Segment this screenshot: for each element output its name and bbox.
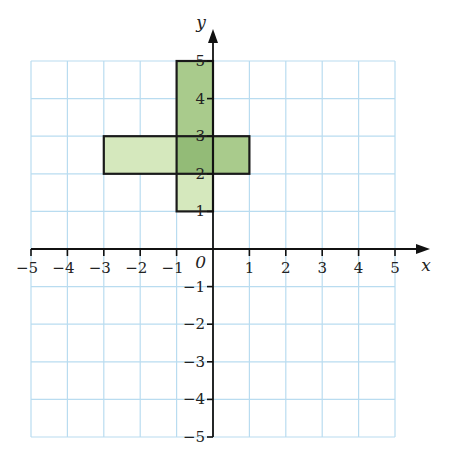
y-tick-label: 2 (195, 165, 205, 183)
x-tick-label: −4 (52, 259, 74, 277)
x-axis-arrow-icon (416, 244, 430, 254)
axes (31, 29, 430, 437)
y-tick-label: −3 (183, 353, 205, 371)
y-axis-arrow-icon (208, 29, 218, 43)
origin-label: 0 (195, 252, 206, 272)
y-tick-label: −1 (183, 278, 205, 296)
x-axis-label: x (421, 255, 431, 275)
coordinate-plane: −5−4−3−2−11234554321−1−2−3−4−50xy (0, 0, 449, 472)
y-tick-label: 4 (195, 90, 205, 108)
y-tick-label: 5 (195, 52, 205, 70)
x-tick-label: −2 (125, 259, 147, 277)
shapes (104, 61, 250, 211)
x-tick-label: 3 (317, 259, 327, 277)
tick-labels: −5−4−3−2−11234554321−1−2−3−4−50xy (16, 12, 431, 446)
x-tick-label: 5 (390, 259, 400, 277)
y-tick-label: −4 (183, 390, 205, 408)
horizontal-rectangle-left (104, 136, 177, 174)
x-tick-label: −3 (89, 259, 111, 277)
y-tick-label: −5 (183, 428, 205, 446)
horizontal-rectangle-right (213, 136, 249, 174)
x-tick-label: 2 (281, 259, 291, 277)
x-tick-label: −5 (16, 259, 38, 277)
y-tick-label: −2 (183, 315, 205, 333)
y-tick-label: 3 (195, 127, 205, 145)
x-tick-label: 1 (245, 259, 255, 277)
x-tick-label: −1 (162, 259, 184, 277)
x-tick-label: 4 (354, 259, 364, 277)
y-axis-label: y (195, 12, 206, 32)
y-tick-label: 1 (195, 202, 205, 220)
